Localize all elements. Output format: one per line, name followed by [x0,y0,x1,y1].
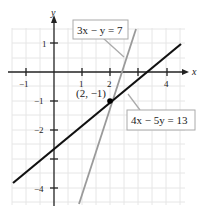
chart-plot: x y −1 1 2 4 1 −1 −2 −4 (2, −1) 3x − y =… [0,0,205,215]
tick-label-x-neg1: −1 [19,79,29,89]
callout-leader-eq1 [103,38,124,57]
y-axis-label: y [50,7,56,18]
tick-label-y-neg2: −2 [34,125,44,135]
intersection-point [107,98,113,104]
tick-label-y-neg4: −4 [34,184,44,194]
tick-label-x-2: 2 [107,79,112,89]
x-axis-label: x [191,66,197,77]
tick-label-y-1: 1 [42,39,47,49]
tick-label-x-4: 4 [164,79,169,89]
equation-label-2: 4x − 5y = 13 [131,114,188,126]
equation-label-1: 3x − y = 7 [77,24,123,36]
intersection-label: (2, −1) [76,87,106,100]
x-axis-arrow-icon [182,69,189,75]
tick-label-y-neg1: −1 [34,96,44,106]
